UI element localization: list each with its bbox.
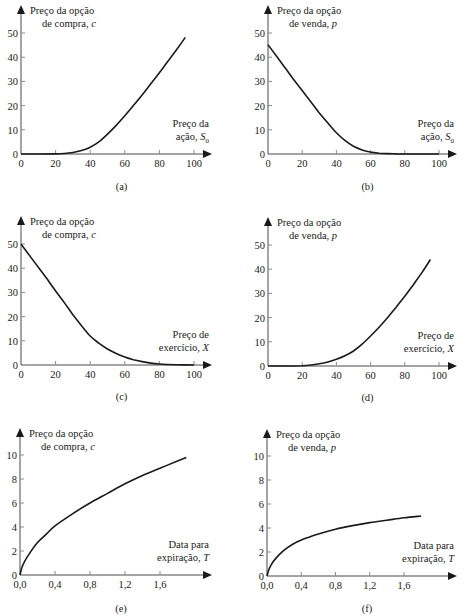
y-axis-variable: p xyxy=(330,442,336,453)
y-axis-label-text: de compra, xyxy=(41,441,90,452)
y-tick-label: 2 xyxy=(12,546,17,557)
x-axis-label-text: expiração, xyxy=(402,553,448,564)
y-axis-label-line1: Preço da opção xyxy=(277,217,341,228)
x-tick-label: 80 xyxy=(154,369,165,380)
y-tick-label: 10 xyxy=(8,336,19,347)
y-tick-label: 10 xyxy=(8,125,19,136)
x-tick-label: 40 xyxy=(85,369,96,380)
x-tick-label: 100 xyxy=(431,158,447,169)
y-axis-variable: c xyxy=(90,441,95,452)
y-axis-label-line1: Preço da opção xyxy=(30,5,94,16)
y-tick-label: 0 xyxy=(260,361,265,372)
y-axis-label-line2: de compra, c xyxy=(42,229,96,240)
x-axis-label-line1: Preço de xyxy=(173,329,210,340)
y-axis-label-text: de compra, xyxy=(42,229,91,240)
panel-caption: (e) xyxy=(115,603,127,615)
x-axis-variable-subscript: 0 xyxy=(206,137,210,145)
y-axis-arrow-icon xyxy=(264,5,272,14)
x-tick-label: 40 xyxy=(85,158,96,169)
y-axis-arrow-icon xyxy=(16,428,24,437)
y-tick-label: 10 xyxy=(7,450,18,461)
x-tick-label: 20 xyxy=(50,369,61,380)
y-axis-arrow-icon xyxy=(17,216,25,225)
x-tick-label: 80 xyxy=(154,158,165,169)
x-axis-label-text: exercício, xyxy=(404,343,448,354)
x-axis-label-line1: Data para xyxy=(168,539,209,550)
panel-caption: (d) xyxy=(361,392,374,404)
x-axis-label-line2: ação, S0 xyxy=(421,131,455,145)
panel-caption: (c) xyxy=(116,391,128,403)
y-axis-arrow-icon xyxy=(263,429,271,438)
y-tick-label: 20 xyxy=(8,101,19,112)
x-axis-arrow-icon xyxy=(203,150,212,158)
y-tick-label: 0 xyxy=(259,571,264,582)
x-tick-label: 0 xyxy=(265,370,270,381)
y-axis-label-text: de venda, xyxy=(289,230,332,241)
x-tick-label: 20 xyxy=(297,370,308,381)
y-tick-label: 50 xyxy=(8,239,19,250)
x-tick-label: 80 xyxy=(400,158,411,169)
x-tick-label: 60 xyxy=(120,158,131,169)
x-tick-label: 100 xyxy=(186,369,202,380)
y-tick-label: 8 xyxy=(259,475,264,486)
y-tick-label: 50 xyxy=(255,28,266,39)
panel-caption: (a) xyxy=(116,181,128,193)
x-tick-label: 60 xyxy=(365,370,376,381)
y-tick-label: 4 xyxy=(259,523,265,534)
x-tick-label: 40 xyxy=(331,158,342,169)
x-axis-label-text: expiração, xyxy=(157,552,203,563)
chart-panel-a: 02040608010001020304050Preço da opçãode … xyxy=(8,5,213,193)
x-axis-label-line2: exercício, X xyxy=(159,342,210,353)
x-tick-label: 1,2 xyxy=(363,580,376,591)
x-tick-label: 0 xyxy=(265,158,270,169)
y-axis-arrow-icon xyxy=(17,5,25,14)
y-tick-label: 20 xyxy=(255,313,266,324)
y-tick-label: 40 xyxy=(255,52,266,63)
y-axis-label-line2: de venda, p xyxy=(289,230,337,241)
y-tick-label: 6 xyxy=(259,499,264,510)
x-axis-label-text: ação, xyxy=(176,131,200,142)
y-tick-label: 10 xyxy=(254,451,265,462)
x-axis-label-line1: Data para xyxy=(413,540,454,551)
y-tick-label: 30 xyxy=(8,287,19,298)
y-tick-label: 0 xyxy=(13,149,18,160)
y-axis-label-line1: Preço da opção xyxy=(29,428,93,439)
y-tick-label: 40 xyxy=(8,52,19,63)
x-axis-label-line2: ação, S0 xyxy=(176,131,210,145)
series-line-b xyxy=(268,45,439,154)
y-tick-label: 0 xyxy=(260,149,265,160)
y-tick-label: 0 xyxy=(12,570,17,581)
y-axis-variable: p xyxy=(331,18,337,29)
x-axis-arrow-icon xyxy=(448,572,457,580)
x-tick-label: 0,4 xyxy=(48,579,62,590)
y-tick-label: 20 xyxy=(255,101,266,112)
y-tick-label: 8 xyxy=(12,474,17,485)
x-tick-label: 40 xyxy=(331,370,342,381)
y-tick-label: 6 xyxy=(12,498,17,509)
x-tick-label: 0,8 xyxy=(329,580,342,591)
y-axis-label-line2: de compra, c xyxy=(41,441,95,452)
y-axis-variable: p xyxy=(331,230,337,241)
x-tick-label: 100 xyxy=(186,158,202,169)
x-axis-label-line1: Preço da xyxy=(418,118,455,129)
y-tick-label: 4 xyxy=(12,522,18,533)
y-axis-label-text: de venda, xyxy=(289,18,332,29)
x-tick-label: 60 xyxy=(365,158,376,169)
x-axis-variable-subscript: 0 xyxy=(451,137,455,145)
x-tick-label: 20 xyxy=(50,158,61,169)
y-axis-variable: c xyxy=(91,229,96,240)
y-tick-label: 40 xyxy=(8,263,19,274)
y-tick-label: 20 xyxy=(8,312,19,323)
y-axis-label-line2: de compra, c xyxy=(42,18,96,29)
chart-panel-b: 02040608010001020304050Preço da opçãode … xyxy=(255,5,458,193)
x-axis-label-text: exercício, xyxy=(159,342,203,353)
x-tick-label: 1,2 xyxy=(118,579,131,590)
chart-panel-e: 0,00,40,81,21,60246810Preço da opçãode c… xyxy=(7,428,213,615)
y-axis-label-text: de compra, xyxy=(42,18,91,29)
x-axis-variable: X xyxy=(447,343,455,354)
y-axis-label-text: de venda, xyxy=(288,442,331,453)
x-axis-arrow-icon xyxy=(448,362,457,370)
x-axis-variable: X xyxy=(202,342,210,353)
series-line-a xyxy=(21,37,185,154)
y-tick-label: 0 xyxy=(13,360,18,371)
